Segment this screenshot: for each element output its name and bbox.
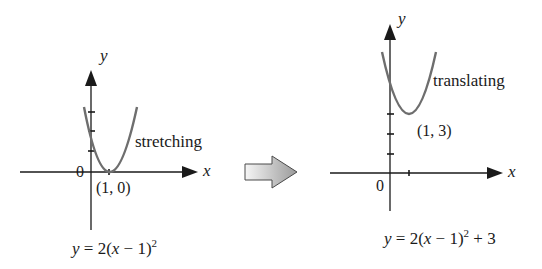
right-y-axis-label: y (398, 10, 406, 27)
right-eq-coef: 2( (410, 229, 424, 248)
right-eq-lhs: y (384, 229, 392, 248)
left-y-axis-label: y (100, 47, 108, 64)
right-y-axis-arrowhead-icon (384, 24, 396, 40)
right-x-axis-label: x (508, 163, 516, 180)
right-eq-rest: − 1) (431, 229, 463, 248)
right-eq-equals: = (392, 229, 410, 248)
left-parabola-curve (84, 107, 137, 172)
left-y-axis-arrowhead-icon (85, 70, 97, 86)
stretching-label: stretching (135, 133, 202, 150)
left-equation: y = 2(x − 1)2 (72, 238, 157, 257)
right-graph (330, 24, 503, 211)
right-vertex-label: (1, 3) (417, 123, 452, 139)
left-eq-lhs: y (72, 239, 80, 258)
left-x-axis-label: x (203, 162, 211, 179)
left-x-axis-arrowhead-icon (182, 166, 198, 178)
right-x-axis-arrowhead-icon (487, 167, 503, 179)
left-eq-coef: 2( (98, 239, 112, 258)
left-vertex-label: (1, 0) (96, 180, 131, 196)
left-eq-exponent: 2 (152, 237, 158, 249)
left-eq-rest: − 1) (119, 239, 151, 258)
left-eq-equals: = (80, 239, 98, 258)
left-origin-label: 0 (76, 164, 84, 180)
translating-label: translating (433, 72, 505, 89)
right-eq-tail: + 3 (469, 229, 496, 248)
right-origin-label: 0 (376, 178, 384, 194)
right-equation: y = 2(x − 1)2 + 3 (384, 228, 496, 247)
transformation-arrow-icon (245, 156, 297, 188)
